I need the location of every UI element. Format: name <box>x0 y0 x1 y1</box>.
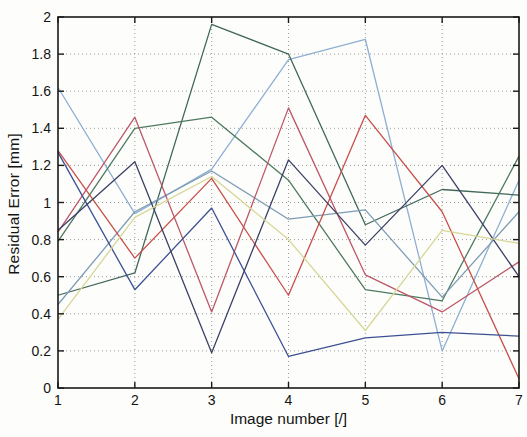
x-tick-label: 7 <box>515 392 523 408</box>
y-tick-label: 0.4 <box>32 306 52 322</box>
x-tick-label: 5 <box>361 392 369 408</box>
y-tick-label: 0.8 <box>32 232 52 248</box>
x-tick-label: 6 <box>438 392 446 408</box>
y-tick-label: 1.6 <box>32 83 52 99</box>
y-tick-label: 0 <box>43 380 51 396</box>
x-tick-label: 1 <box>54 392 62 408</box>
y-tick-label: 1 <box>43 195 51 211</box>
x-tick-label: 4 <box>285 392 293 408</box>
y-tick-label: 1.4 <box>32 120 52 136</box>
y-tick-label: 1.2 <box>32 157 52 173</box>
x-tick-label: 3 <box>208 392 216 408</box>
y-tick-label: 2 <box>43 9 51 25</box>
x-axis-label: Image number [/] <box>58 410 519 428</box>
y-tick-label: 1.8 <box>32 46 52 62</box>
figure-page: 123456700.20.40.60.811.21.41.61.82 Resid… <box>0 0 527 437</box>
y-tick-label: 0.2 <box>32 343 52 359</box>
residual-error-line-chart: 123456700.20.40.60.811.21.41.61.82 <box>0 0 527 437</box>
x-tick-label: 2 <box>131 392 139 408</box>
y-tick-label: 0.6 <box>32 269 52 285</box>
y-axis-label: Residual Error [mm] <box>5 114 23 294</box>
